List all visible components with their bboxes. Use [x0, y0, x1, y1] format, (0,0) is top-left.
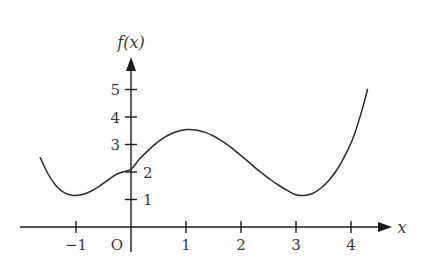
y-axis-label: f(x) — [116, 33, 144, 52]
function-graph-figure: −1 1 2 3 4 O 1 2 3 4 5 f(x) x — [0, 0, 424, 270]
x-axis-label: x — [397, 218, 406, 237]
x-tick-label-2: 2 — [236, 236, 246, 254]
y-tick-label-3: 3 — [110, 136, 120, 154]
plot-canvas: −1 1 2 3 4 O 1 2 3 4 5 f(x) x — [0, 0, 424, 270]
x-tick-label-3: 3 — [291, 236, 301, 254]
x-axis-arrow-icon — [378, 222, 392, 232]
origin-label: O — [111, 236, 123, 254]
y-tick-label-5: 5 — [110, 81, 120, 99]
function-curve — [40, 90, 367, 196]
y-tick-label-2: 2 — [143, 164, 153, 182]
x-tick-label-4: 4 — [346, 236, 356, 254]
x-tick-label-1: 1 — [181, 236, 191, 254]
y-tick-label-1: 1 — [143, 191, 153, 209]
y-axis-arrow-icon — [126, 57, 136, 71]
y-tick-label-4: 4 — [110, 109, 120, 127]
x-tick-label-neg1: −1 — [65, 236, 87, 254]
